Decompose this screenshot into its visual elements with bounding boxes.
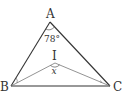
angle-mark-b: [16, 78, 17, 83]
side-ab: [11, 22, 50, 86]
side-ac: [50, 22, 110, 86]
triangle-diagram: A B C I 78° x: [0, 0, 130, 110]
label-b: B: [0, 80, 9, 94]
label-c: C: [113, 80, 122, 94]
label-angle-a: 78°: [44, 34, 60, 44]
label-i: I: [52, 49, 57, 63]
segment-ci: [55, 63, 110, 86]
label-a: A: [45, 7, 55, 21]
label-angle-x: x: [52, 66, 57, 76]
